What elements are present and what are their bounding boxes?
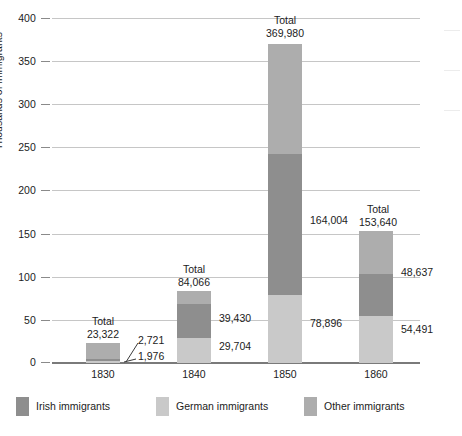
gridline-300 — [52, 104, 420, 105]
gridline-350 — [52, 61, 420, 62]
total-word-1830: Total — [63, 315, 143, 328]
y-tick-dash-0 — [41, 362, 50, 363]
y-tick-dash-200 — [41, 190, 50, 191]
segment-other-1850 — [268, 44, 302, 154]
bar-1850[interactable] — [268, 44, 302, 363]
immigration-stacked-bar-chart: Thousands of immigrants 400 350 300 250 … — [0, 0, 462, 436]
segment-german-1850 — [268, 295, 302, 363]
y-tick-label-150: 150 — [2, 228, 36, 240]
value-label-german-1830: 1,976 — [138, 350, 164, 362]
legend-label-irish: Irish immigrants — [36, 400, 110, 412]
value-label-irish-1830: 2,721 — [138, 334, 164, 346]
y-tick-dash-400 — [41, 18, 50, 19]
x-tick-label-1850: 1850 — [255, 368, 315, 380]
gridline-250 — [52, 147, 420, 148]
y-tick-dash-350 — [41, 61, 50, 62]
segment-german-1860 — [359, 316, 393, 363]
y-tick-label-200: 200 — [2, 184, 36, 196]
x-tick-label-1840: 1840 — [164, 368, 224, 380]
x-tick-label-1860: 1860 — [346, 368, 406, 380]
legend-swatch-other-icon — [304, 397, 317, 416]
y-tick-label-400: 400 — [2, 12, 36, 24]
total-word-1850: Total — [242, 14, 328, 27]
segment-irish-1860 — [359, 274, 393, 316]
legend-swatch-german-icon — [156, 397, 169, 416]
scan-artifact-2 — [444, 70, 460, 71]
total-word-1840: Total — [154, 263, 234, 276]
x-tick-label-1830: 1830 — [73, 368, 133, 380]
y-tick-dash-100 — [41, 277, 50, 278]
y-tick-label-100: 100 — [2, 271, 36, 283]
y-tick-dash-50 — [41, 320, 50, 321]
y-tick-label-0: 0 — [2, 356, 36, 368]
y-tick-label-250: 250 — [2, 141, 36, 153]
y-tick-dash-150 — [41, 234, 50, 235]
y-tick-label-350: 350 — [2, 55, 36, 67]
scan-artifact-3 — [444, 110, 460, 111]
gridline-400 — [52, 18, 420, 19]
segment-other-1860 — [359, 231, 393, 274]
value-label-german-1850: 78,896 — [310, 317, 342, 329]
y-tick-dash-300 — [41, 104, 50, 105]
legend-label-other: Other immigrants — [324, 400, 405, 412]
legend-swatch-irish-icon — [16, 397, 29, 416]
value-label-german-1860: 54,491 — [401, 323, 433, 335]
total-value-1850: 369,980 — [242, 27, 328, 40]
total-value-1840: 84,066 — [154, 276, 234, 289]
y-tick-label-50: 50 — [2, 314, 36, 326]
bar-1860[interactable] — [359, 231, 393, 363]
value-label-german-1840: 29,704 — [219, 340, 251, 352]
total-label-1840: Total 84,066 — [154, 263, 234, 288]
value-label-irish-1840: 39,430 — [219, 312, 251, 324]
y-tick-label-300: 300 — [2, 98, 36, 110]
segment-other-1840 — [177, 291, 211, 304]
value-label-irish-1850: 164,004 — [310, 214, 348, 226]
value-label-irish-1860: 48,637 — [401, 266, 433, 278]
plot-area: 400 350 300 250 200 150 100 50 0 — [52, 18, 420, 363]
gridline-200 — [52, 190, 420, 191]
total-label-1850: Total 369,980 — [242, 14, 328, 39]
y-tick-dash-250 — [41, 147, 50, 148]
scan-artifact-1 — [444, 30, 460, 31]
legend-label-german: German immigrants — [176, 400, 268, 412]
chart-legend: Irish immigrants German immigrants Other… — [16, 396, 446, 420]
segment-irish-1850 — [268, 154, 302, 295]
